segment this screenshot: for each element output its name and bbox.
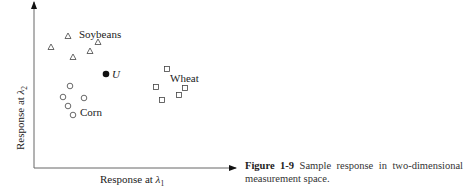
square-marker [154, 85, 159, 90]
circle-marker [81, 95, 87, 101]
circle-marker [67, 83, 73, 89]
square-marker [183, 86, 188, 91]
triangle-marker [48, 44, 54, 50]
label-wheat: Wheat [170, 72, 199, 84]
triangle-marker [70, 54, 76, 60]
triangle-marker [87, 48, 93, 54]
y-axis-label: Response at λ2 [14, 86, 29, 150]
x-axis-label: Response at λ1 [100, 173, 164, 188]
triangle-marker [65, 33, 71, 39]
axes [34, 2, 236, 168]
circle-marker [65, 103, 71, 109]
figure-number: Figure 1-9 [245, 160, 294, 171]
label-unknown: U [112, 68, 121, 80]
figure-caption: Figure 1-9 Sample response in two-dimens… [245, 159, 463, 185]
label-soybeans: Soybeans [79, 28, 121, 40]
square-marker [165, 67, 170, 72]
square-marker [177, 93, 182, 98]
unknown-point-marker [103, 71, 110, 78]
label-corn: Corn [80, 106, 103, 118]
circle-marker [60, 94, 66, 100]
circle-marker [70, 112, 76, 118]
square-marker [160, 98, 165, 103]
